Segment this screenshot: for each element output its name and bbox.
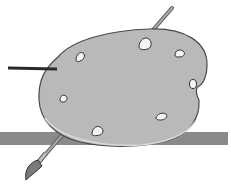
palette-illustration — [0, 0, 231, 187]
thumb-hole — [190, 80, 197, 89]
pointer-line — [8, 68, 57, 69]
palette-board — [39, 29, 207, 146]
